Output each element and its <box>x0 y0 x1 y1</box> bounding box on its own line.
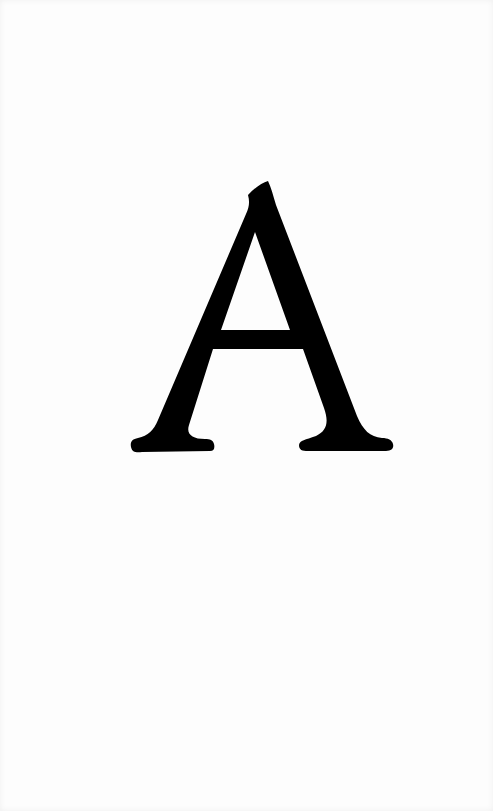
scanned-page: A <box>0 0 493 811</box>
letter-a-glyph <box>0 0 493 811</box>
